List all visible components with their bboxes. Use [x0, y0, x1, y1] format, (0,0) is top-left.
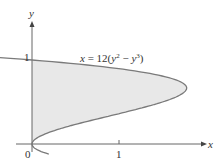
- equation-label: x = 12(y2 − y3): [79, 52, 144, 65]
- chart: y x 1 1 0 x = 12(y2 − y3): [0, 0, 221, 165]
- y-axis-arrow-icon: [30, 21, 35, 27]
- x-axis-arrow-icon: [201, 142, 207, 147]
- origin-label: 0: [25, 148, 31, 160]
- y-tick-label-1: 1: [24, 51, 30, 63]
- x-axis-label: x: [207, 138, 213, 150]
- x-tick-label-1: 1: [116, 148, 122, 160]
- y-axis-label: y: [28, 7, 34, 19]
